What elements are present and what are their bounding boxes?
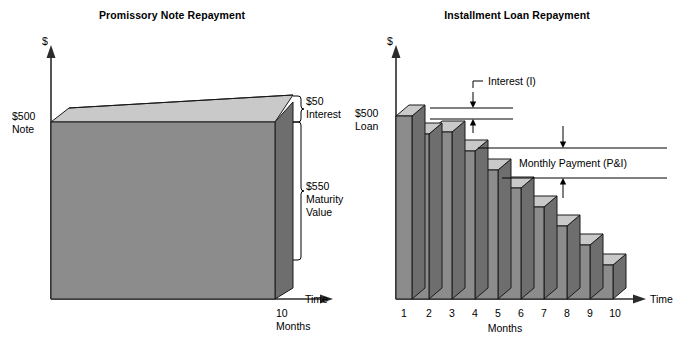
y-axis-label-installment: $ — [387, 35, 393, 47]
tick-month-7: 7 — [541, 307, 547, 319]
payment-arrow-up-icon — [560, 178, 566, 185]
panel-title-installment: Installment Loan Repayment — [345, 9, 689, 21]
month-tick-labels: 1 2 3 4 5 6 7 8 9 10 — [401, 307, 621, 319]
label-interest-amount: $50 — [306, 95, 324, 107]
label-interest-text: Interest — [306, 108, 341, 120]
payment-arrow-down-icon — [560, 142, 566, 149]
installment-loan-panel: Installment Loan Repayment — [345, 0, 689, 347]
note-block-side-face — [275, 102, 293, 299]
tick-month-6: 6 — [518, 307, 524, 319]
loan-bars — [396, 105, 626, 299]
label-maturity-amount: $550 — [306, 180, 330, 192]
tick-month-9: 9 — [587, 307, 593, 319]
tick-month-5: 5 — [495, 307, 501, 319]
x-axis-note-value: 10 — [276, 307, 288, 319]
bar-month-1 — [396, 105, 425, 299]
tick-month-1: 1 — [401, 307, 407, 319]
y-axis-arrow-icon — [47, 45, 56, 58]
tick-month-2: 2 — [426, 307, 432, 319]
installment-loan-chart: $500 Loan Interest (I) Monthly — [345, 0, 689, 347]
tick-month-10: 10 — [609, 307, 621, 319]
label-note-text: Note — [12, 123, 34, 135]
label-interest-annotation: Interest (I) — [488, 75, 536, 87]
maturity-value-brace — [293, 122, 304, 260]
note-block-top-face — [51, 95, 293, 122]
interest-arrow-down-icon — [470, 102, 476, 109]
label-note-amount: $500 — [12, 110, 36, 122]
label-maturity-text-1: Maturity — [306, 193, 344, 205]
label-loan-amount: $500 — [355, 107, 379, 119]
y-axis-arrow-icon — [392, 45, 401, 58]
x-axis-label-promissory: Time — [305, 293, 328, 305]
x-axis-title-installment: Months — [488, 322, 522, 334]
x-axis-label-installment: Time — [650, 293, 673, 305]
panel-title-promissory: Promissory Note Repayment — [0, 9, 344, 21]
promissory-note-panel: Promissory Note Repayment $500 Note $50 … — [0, 0, 344, 347]
promissory-note-chart: $500 Note $50 Interest $550 Maturity Val… — [0, 0, 344, 347]
x-axis-note-unit: Months — [276, 320, 310, 332]
interest-arrow-up-icon — [470, 119, 476, 126]
x-axis-arrow-icon — [633, 295, 646, 304]
note-block-front-face — [51, 122, 275, 299]
tick-month-4: 4 — [472, 307, 478, 319]
label-maturity-text-2: Value — [306, 206, 332, 218]
tick-month-3: 3 — [449, 307, 455, 319]
y-axis-label-promissory: $ — [42, 35, 48, 47]
label-monthly-payment-annotation: Monthly Payment (P&I) — [519, 157, 627, 169]
label-loan-text: Loan — [355, 120, 379, 132]
tick-month-8: 8 — [564, 307, 570, 319]
interest-brace — [293, 96, 304, 122]
